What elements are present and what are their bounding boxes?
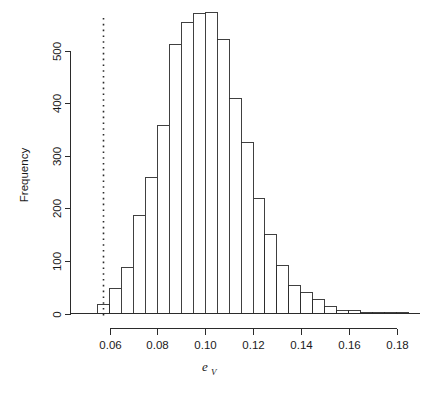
histogram-bar: [229, 99, 241, 314]
y-tick-label: 100: [51, 252, 63, 271]
y-axis-title: Frequency: [18, 148, 30, 203]
histogram-bar: [181, 23, 193, 314]
histogram-bar: [205, 12, 217, 313]
x-tick-label: 0.18: [386, 339, 408, 351]
y-axis-tick-labels: 0100200300400500: [51, 42, 63, 318]
x-tick-label: 0.14: [290, 339, 313, 351]
y-tick-label: 0: [51, 311, 63, 317]
histogram-bar: [157, 126, 169, 314]
page-bleed-artifact: [0, 388, 429, 398]
histogram-bar: [241, 143, 253, 314]
histogram-bar: [313, 300, 325, 314]
histogram-bar: [265, 234, 277, 313]
histogram-bar: [133, 215, 145, 313]
plot-area: [71, 12, 421, 316]
histogram-bar: [169, 45, 181, 314]
x-axis: 0.060.080.100.120.140.160.18 e V: [99, 329, 408, 378]
histogram-bar: [193, 14, 205, 314]
x-tick-label: 0.10: [194, 339, 216, 351]
y-tick-label: 300: [51, 147, 63, 166]
x-axis-title-subscript: V: [211, 367, 218, 377]
y-axis-ticks: [65, 52, 71, 315]
x-tick-label: 0.16: [338, 339, 360, 351]
x-axis-ticks: [111, 329, 398, 335]
y-axis: 0100200300400500 Frequency: [18, 42, 71, 318]
histogram-bar: [325, 306, 337, 313]
histogram-bar: [289, 286, 301, 314]
x-tick-label: 0.06: [99, 339, 121, 351]
histogram-bar: [110, 288, 122, 313]
histogram-bar: [253, 198, 265, 313]
y-tick-label: 400: [51, 94, 63, 113]
histogram-bar: [217, 40, 229, 314]
histogram-bar: [121, 267, 133, 313]
y-tick-label: 500: [51, 42, 63, 61]
x-tick-label: 0.08: [146, 339, 168, 351]
x-tick-label: 0.12: [242, 339, 264, 351]
histogram-bar: [277, 266, 289, 314]
x-axis-tick-labels: 0.060.080.100.120.140.160.18: [99, 339, 408, 351]
histogram-figure: 0100200300400500 Frequency 0.060.080.100…: [0, 0, 429, 398]
y-tick-label: 200: [51, 199, 63, 218]
x-axis-title: e: [202, 359, 208, 374]
histogram-bars: [98, 12, 409, 313]
histogram-plot: 0100200300400500 Frequency 0.060.080.100…: [0, 0, 429, 398]
histogram-bar: [301, 292, 313, 313]
histogram-bar: [145, 178, 157, 314]
